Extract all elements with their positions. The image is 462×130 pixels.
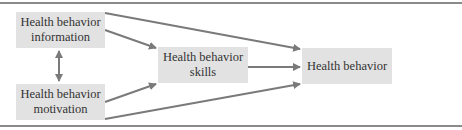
node-motivation-line2: motivation <box>20 102 100 117</box>
arrow-information-behavior <box>105 13 300 49</box>
node-motivation: Health behaviormotivation <box>16 84 105 120</box>
node-skills-line1: Health behavior <box>163 50 243 65</box>
arrow-motivation-behavior <box>105 84 300 119</box>
node-behavior: Health behavior <box>302 48 392 84</box>
node-information-line1: Health behavior <box>20 15 100 30</box>
node-information: Health behaviorinformation <box>16 12 105 48</box>
arrow-motivation-skills <box>105 84 156 102</box>
node-skills: Health behaviorskills <box>158 47 248 83</box>
node-behavior-line1: Health behavior <box>307 59 387 74</box>
node-information-line2: information <box>20 30 100 45</box>
node-motivation-line1: Health behavior <box>20 87 100 102</box>
node-skills-line2: skills <box>163 65 243 80</box>
arrow-information-skills <box>105 30 156 48</box>
